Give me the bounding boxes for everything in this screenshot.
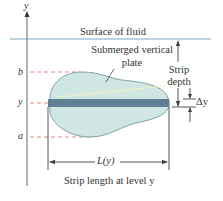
horizontal-strip [48, 99, 169, 107]
level-y-label: y [18, 97, 22, 107]
plate-label-line1: Submerged vertical [82, 45, 182, 56]
strip-depth-down-arrow-icon [176, 101, 180, 107]
submerged-plate-diagram: y Surface of fluid Submerged vertical pl… [0, 0, 223, 201]
level-b-label: b [18, 67, 23, 77]
strip-depth-label-line1: Strip [166, 65, 192, 76]
level-a-label: a [18, 131, 23, 141]
caption: Strip length at level y [64, 176, 154, 187]
y-axis-label: y [24, 1, 28, 11]
y-axis-arrow-icon [25, 11, 30, 17]
length-right-arrow-icon [162, 160, 168, 164]
strip-depth-label-line2: depth [165, 77, 193, 88]
delta-y-down-arrow-icon [188, 94, 192, 99]
surface-of-fluid-label: Surface of fluid [80, 27, 146, 38]
delta-y-label: Δy [196, 97, 208, 108]
delta-y-up-arrow-icon [188, 107, 192, 112]
length-left-arrow-icon [49, 160, 55, 164]
length-label: L(y) [97, 156, 115, 167]
